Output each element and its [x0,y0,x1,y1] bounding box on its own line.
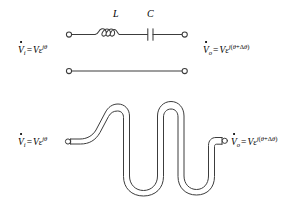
lc-network-group [66,29,187,40]
lc-input-terminal-circle [66,32,71,37]
meander-input-phasor-label: Vi=Vεjθ [18,136,47,148]
inductor-coil [95,29,121,36]
line-output-terminal-circle [182,68,187,73]
meander-line-group [65,102,227,197]
meander-input-phasor-amplitude: V [33,137,39,147]
meander-input-phasor-equals: = [26,137,33,147]
meander-output-phasor-symbol: V [231,138,237,148]
circuit-diagram-svg [0,0,290,199]
lc-output-phasor-symbol: V [203,46,209,56]
meander-output-phasor-amplitude: V [247,137,253,147]
meander-output-phasor-label: Vo=Vεj(θ+Δθ) [231,136,277,148]
phasor-dot-icon [205,41,207,43]
line-input-terminal-circle [66,68,71,73]
lc-output-terminal-circle [182,32,187,37]
meander-trace-inner [71,109,222,196]
lc-input-phasor-label: Vi=Vεjθ [18,44,47,56]
lc-input-phasor-equals: = [26,45,33,55]
meander-trace-outer [71,102,222,191]
lc-input-phasor-exponent: jθ [42,43,47,50]
meander-input-phasor-symbol: V [18,138,24,148]
meander-input-phasor-exponent: jθ [42,135,47,142]
phasor-dot-icon [233,133,235,135]
capacitor-label: C [147,9,154,19]
meander-output-terminal-circle [222,138,227,143]
phasor-dot-icon [20,133,22,135]
lc-output-phasor-amplitude: V [219,45,225,55]
meander-output-phasor-exponent: j(θ+Δθ) [257,135,278,142]
inductor-label: L [113,9,119,19]
lc-input-phasor-amplitude: V [33,45,39,55]
lc-output-phasor-exponent: j(θ+Δθ) [229,43,250,50]
meander-input-terminal-circle [65,139,70,144]
circuit-figure: L C Vi=Vεjθ Vo=Vεj(θ+Δθ) Vi=Vεjθ Vo=Vεj(… [0,0,290,199]
straight-line-group [66,68,187,73]
lc-output-phasor-label: Vo=Vεj(θ+Δθ) [203,44,249,56]
lc-input-phasor-symbol: V [18,46,24,56]
phasor-dot-icon [20,41,22,43]
